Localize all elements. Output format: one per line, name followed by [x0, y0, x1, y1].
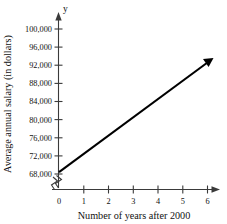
y-axis-arrow-icon: [55, 12, 61, 21]
x-axis-arrow-icon: [212, 186, 221, 192]
x-tick-label: 5: [181, 197, 185, 206]
x-tick-label: 0: [57, 197, 61, 206]
y-tick-label: 72,000: [29, 152, 52, 161]
y-axis-title: Average annual salary (in dollars): [2, 35, 14, 173]
y-tick-label: 100,000: [25, 25, 52, 34]
y-axis-variable-label: y: [63, 4, 68, 14]
y-tick-label: 88,000: [29, 79, 52, 88]
x-tick-label: 1: [82, 197, 86, 206]
y-tick-label: 92,000: [29, 61, 52, 70]
salary-trend-line: [59, 63, 208, 173]
line-chart: 68,000 72,000 76,000 80,000 84,000 88,00…: [0, 0, 227, 224]
x-tick-label: 2: [106, 197, 110, 206]
x-tick-label: 4: [156, 197, 161, 206]
y-tick-label: 80,000: [29, 116, 52, 125]
y-tick-label: 68,000: [29, 170, 52, 179]
chart-container: 68,000 72,000 76,000 80,000 84,000 88,00…: [0, 0, 227, 224]
x-axis-title: Number of years after 2000: [78, 210, 191, 221]
y-axis: [55, 12, 61, 188]
x-tick-label: 3: [131, 197, 135, 206]
data-series-line: [59, 58, 214, 172]
y-tick-label: 96,000: [29, 43, 52, 52]
y-tick-labels: 68,000 72,000 76,000 80,000 84,000 88,00…: [25, 25, 52, 179]
y-tick-label: 76,000: [29, 134, 52, 143]
x-axis: [52, 186, 220, 192]
x-tick-label: 6: [205, 197, 209, 206]
x-tick-labels: 0 1 2 3 4 5 6: [57, 197, 210, 206]
y-tick-label: 84,000: [29, 97, 52, 106]
